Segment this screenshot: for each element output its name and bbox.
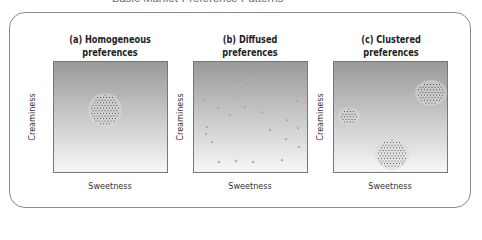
data-point xyxy=(102,115,103,116)
data-point xyxy=(424,84,425,85)
data-point xyxy=(387,158,388,159)
data-point xyxy=(109,123,110,124)
data-point xyxy=(114,115,115,116)
data-point xyxy=(436,95,437,96)
data-point xyxy=(424,95,425,96)
data-point xyxy=(392,166,393,167)
data-point xyxy=(427,100,428,101)
panel-c-y-axis-label: Creaminess xyxy=(314,92,326,143)
data-point xyxy=(395,166,396,167)
data-point xyxy=(111,100,112,101)
data-point xyxy=(439,95,440,96)
data-point xyxy=(439,89,440,90)
data-point xyxy=(396,158,397,159)
data-point xyxy=(429,87,430,88)
data-point xyxy=(94,102,95,103)
data-point xyxy=(114,121,115,122)
panel-a-title-line1: (a) Homogeneous xyxy=(49,33,172,46)
data-point xyxy=(100,102,101,103)
data-point xyxy=(341,116,342,117)
data-point xyxy=(350,116,351,117)
data-point xyxy=(423,87,424,88)
panel-a-plot xyxy=(53,61,168,173)
data-point xyxy=(91,108,92,109)
data-point xyxy=(402,158,403,159)
data-point xyxy=(111,121,112,122)
data-point xyxy=(401,155,402,156)
data-point xyxy=(109,118,110,119)
data-point xyxy=(103,97,104,98)
data-point xyxy=(118,108,119,109)
data-point xyxy=(347,111,348,112)
data-point xyxy=(296,100,297,101)
data-point xyxy=(392,145,393,146)
data-point xyxy=(115,113,116,114)
diffused-scatter xyxy=(194,62,307,172)
data-point xyxy=(352,119,353,120)
data-point xyxy=(229,114,230,115)
data-point xyxy=(390,153,391,154)
data-point xyxy=(389,155,390,156)
data-point xyxy=(96,110,97,111)
data-point xyxy=(115,118,116,119)
data-point xyxy=(433,84,434,85)
data-point xyxy=(420,92,421,93)
data-point xyxy=(108,110,109,111)
data-point xyxy=(97,97,98,98)
data-point xyxy=(111,115,112,116)
data-point xyxy=(114,110,115,111)
data-point xyxy=(349,119,350,120)
data-point xyxy=(395,155,396,156)
data-point xyxy=(109,97,110,98)
data-point xyxy=(441,92,442,93)
data-point xyxy=(395,160,396,161)
data-point xyxy=(427,84,428,85)
data-point xyxy=(441,97,442,98)
data-point xyxy=(401,150,402,151)
data-point xyxy=(97,102,98,103)
panel-a-title: (a) Homogeneous preferences xyxy=(49,33,172,59)
data-point xyxy=(393,163,394,164)
data-point xyxy=(393,142,394,143)
panel-b-plot xyxy=(193,61,308,173)
panel-c-title-line1: (c) Clustered xyxy=(330,33,453,46)
data-point xyxy=(435,92,436,93)
data-point xyxy=(399,153,400,154)
data-point xyxy=(244,106,245,107)
data-point xyxy=(346,119,347,120)
data-point xyxy=(430,95,431,96)
panel-c-x-axis-label: Sweetness xyxy=(348,180,433,192)
data-point xyxy=(429,92,430,93)
data-point xyxy=(117,105,118,106)
data-point xyxy=(106,123,107,124)
data-point xyxy=(398,160,399,161)
data-point xyxy=(91,113,92,114)
data-point xyxy=(344,122,345,123)
data-point xyxy=(438,87,439,88)
homogeneous-scatter xyxy=(54,62,167,172)
data-point xyxy=(392,160,393,161)
panel-c-plot xyxy=(333,61,448,173)
data-point xyxy=(205,133,206,134)
data-point xyxy=(344,111,345,112)
data-point xyxy=(386,145,387,146)
data-point xyxy=(393,147,394,148)
data-point xyxy=(108,115,109,116)
data-point xyxy=(100,123,101,124)
data-point xyxy=(106,102,107,103)
data-point xyxy=(383,145,384,146)
data-point xyxy=(203,99,204,100)
data-point xyxy=(347,116,348,117)
data-point xyxy=(426,97,427,98)
data-point xyxy=(427,95,428,96)
data-point xyxy=(401,160,402,161)
data-point xyxy=(426,87,427,88)
data-point xyxy=(117,115,118,116)
data-point xyxy=(421,100,422,101)
data-point xyxy=(108,100,109,101)
data-point xyxy=(281,159,282,160)
data-point xyxy=(355,119,356,120)
data-point xyxy=(99,100,100,101)
data-point xyxy=(433,100,434,101)
data-point xyxy=(249,80,250,81)
